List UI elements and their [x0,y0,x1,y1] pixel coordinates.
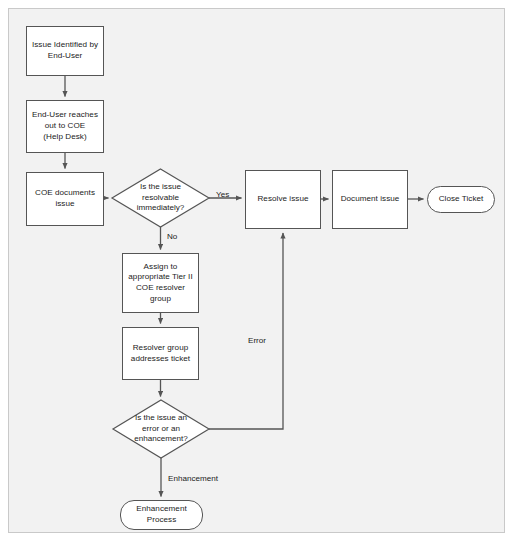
edge-label-error: Error [248,336,266,346]
connector-decision2-error-to-resolve [209,233,283,429]
node-enhancement-process[interactable]: Enhancement Process [120,500,203,530]
connector-layer [0,0,515,553]
flowchart-page: Issue Identified by End-User End-User re… [0,0,515,553]
edge-label-yes: Yes [216,190,229,200]
decision-shape-is-issue-resolvable [112,169,209,227]
node-document-issue[interactable]: Document issue [332,170,408,229]
node-close-ticket-label: Close Ticket [436,194,487,205]
node-resolver-group-addresses[interactable]: Resolver group addresses ticket [122,327,199,380]
edge-label-enhancement: Enhancement [168,474,218,484]
node-end-user-reaches-out-label: End-User reaches out to COE (Help Desk) [29,110,101,142]
node-issue-identified[interactable]: Issue Identified by End-User [26,26,104,76]
node-coe-documents-issue-label: COE documents issue [32,188,98,209]
node-coe-documents-issue[interactable]: COE documents issue [26,172,104,226]
node-enhancement-process-label: Enhancement Process [133,504,190,525]
edge-label-no: No [167,232,177,242]
node-close-ticket[interactable]: Close Ticket [427,186,495,213]
node-issue-identified-label: Issue Identified by End-User [29,40,101,61]
node-resolve-issue[interactable]: Resolve issue [245,170,321,229]
node-resolve-issue-label: Resolve issue [254,194,311,205]
node-resolver-group-addresses-label: Resolver group addresses ticket [128,343,193,364]
node-assign-to-tier-ii[interactable]: Assign to appropriate Tier II COE resolv… [122,253,199,313]
decision-shape-is-issue-error-or-enhancement [113,400,209,458]
node-document-issue-label: Document issue [338,194,403,205]
node-end-user-reaches-out[interactable]: End-User reaches out to COE (Help Desk) [26,100,104,153]
node-assign-to-tier-ii-label: Assign to appropriate Tier II COE resolv… [125,262,195,305]
